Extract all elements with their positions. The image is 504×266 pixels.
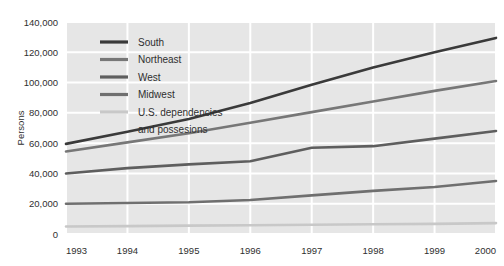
legend-label: U.S. dependencies (138, 107, 223, 118)
y-axis-title-label: Persons (15, 110, 26, 145)
legend-label: and possesions (138, 124, 208, 135)
legend-label: South (138, 37, 164, 48)
y-axis-tick-label: 80,000 (29, 107, 58, 118)
chart-canvas: 020,00040,00060,00080,000100,000120,0001… (0, 0, 504, 266)
y-axis-tick-label: 0 (53, 229, 58, 240)
y-axis-tick-label: 100,000 (24, 77, 58, 88)
x-axis-tick-label: 2000 (475, 245, 496, 256)
x-axis-tick-label: 1996 (240, 245, 261, 256)
y-axis-tick-label: 60,000 (29, 138, 58, 149)
legend-label: West (138, 72, 161, 83)
x-axis-tick-label: 1997 (301, 245, 322, 256)
y-axis-tick-label: 140,000 (24, 17, 58, 28)
y-axis-tick-label: 40,000 (29, 168, 58, 179)
legend-label: Midwest (138, 89, 175, 100)
x-axis-tick-label: 1998 (363, 245, 384, 256)
x-axis-tick-label: 1999 (424, 245, 445, 256)
y-axis-title: Persons (15, 110, 26, 145)
x-axis-tick-label: 1995 (178, 245, 199, 256)
x-axis-tick-label: 1993 (66, 245, 87, 256)
legend-label: Northeast (138, 54, 182, 65)
y-axis-tick-label: 120,000 (24, 47, 58, 58)
y-axis-tick-label: 20,000 (29, 198, 58, 209)
line-chart: 020,00040,00060,00080,000100,000120,0001… (0, 0, 504, 266)
x-axis-tick-label: 1994 (117, 245, 138, 256)
